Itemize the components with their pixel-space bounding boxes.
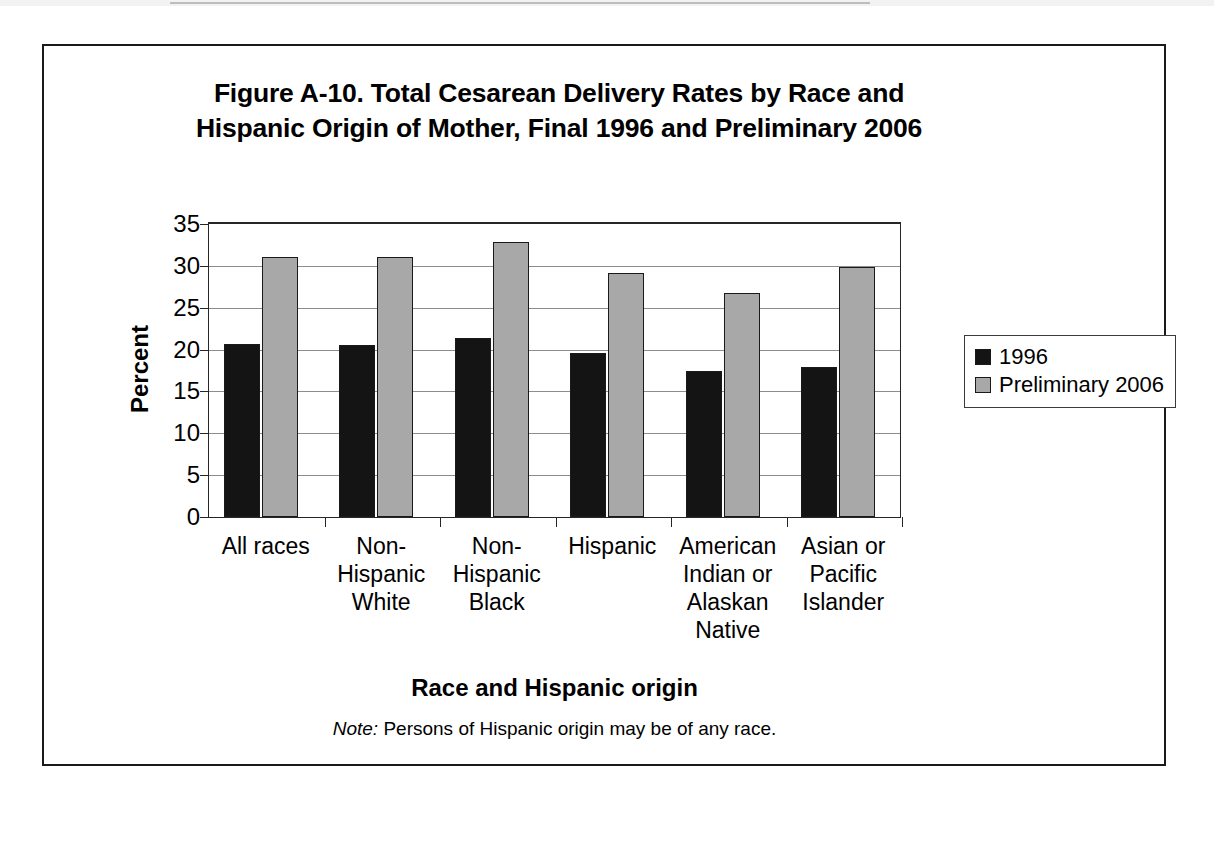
chart-title-line-1: Figure A-10. Total Cesarean Delivery Rat… [114, 76, 1004, 111]
y-tick-label: 10 [173, 421, 200, 445]
y-tick-mark [200, 433, 209, 434]
y-tick-label: 5 [187, 463, 200, 487]
bar [224, 344, 260, 517]
y-tick-mark [200, 266, 209, 267]
bar [801, 367, 837, 517]
y-tick-label: 15 [173, 379, 200, 403]
y-tick-mark [200, 308, 209, 309]
legend-swatch-icon [975, 349, 991, 365]
y-tick-mark [200, 350, 209, 351]
y-tick-label: 35 [173, 212, 200, 236]
scan-artifact-line [170, 2, 870, 4]
x-tick-mark [902, 517, 903, 527]
bar [839, 267, 875, 517]
bar [455, 338, 491, 517]
y-axis-title: Percent [126, 325, 154, 413]
figure-frame: Figure A-10. Total Cesarean Delivery Rat… [42, 44, 1166, 766]
legend-item[interactable]: 1996 [975, 343, 1164, 371]
x-axis-category-label: Hispanic [555, 532, 671, 560]
chart-title: Figure A-10. Total Cesarean Delivery Rat… [114, 76, 1004, 146]
x-axis-category-label: All races [208, 532, 324, 560]
x-tick-mark [325, 517, 326, 527]
x-axis-labels: All racesNon- Hispanic WhiteNon- Hispani… [208, 532, 901, 682]
x-tick-mark [556, 517, 557, 527]
legend-label: Preliminary 2006 [999, 371, 1164, 399]
bar [570, 353, 606, 517]
x-axis-category-label: Non- Hispanic White [324, 532, 440, 616]
y-tick-label: 30 [173, 254, 200, 278]
x-axis-category-label: Non- Hispanic Black [439, 532, 555, 616]
y-tick-label: 0 [187, 505, 200, 529]
plot-area: 05101520253035 [208, 222, 901, 518]
scan-top-band [0, 0, 1214, 6]
bar [339, 345, 375, 517]
legend-item[interactable]: Preliminary 2006 [975, 371, 1164, 399]
bar [377, 257, 413, 517]
legend-label: 1996 [999, 343, 1048, 371]
x-tick-mark [440, 517, 441, 527]
x-axis-category-label: American Indian or Alaskan Native [670, 532, 786, 644]
bar [686, 371, 722, 518]
plot-wrapper: Percent 05101520253035 All racesNon- His… [164, 218, 904, 520]
chart-note-lead: Note: [333, 718, 378, 739]
y-tick-label: 20 [173, 338, 200, 362]
bar [724, 293, 760, 517]
x-axis-title: Race and Hispanic origin [208, 674, 901, 702]
chart-note: Note: Persons of Hispanic origin may be … [208, 718, 901, 740]
y-tick-mark [200, 391, 209, 392]
bar [493, 242, 529, 517]
y-tick-mark [200, 475, 209, 476]
chart-note-text: Persons of Hispanic origin may be of any… [378, 718, 776, 739]
chart-legend: 1996Preliminary 2006 [964, 335, 1176, 408]
bar [262, 257, 298, 517]
legend-swatch-icon [975, 377, 991, 393]
bar [608, 273, 644, 517]
x-tick-mark [787, 517, 788, 527]
y-tick-label: 25 [173, 296, 200, 320]
chart-title-line-2: Hispanic Origin of Mother, Final 1996 an… [114, 111, 1004, 146]
x-axis-category-label: Asian or Pacific Islander [786, 532, 902, 616]
bars-layer [209, 224, 900, 517]
y-tick-mark [200, 517, 209, 518]
y-tick-mark [200, 224, 209, 225]
x-tick-mark [671, 517, 672, 527]
